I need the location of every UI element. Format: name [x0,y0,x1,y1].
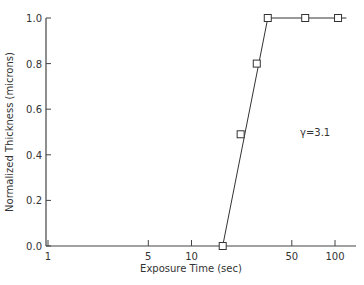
y-tick-label: 1.0 [26,13,42,24]
square-marker [219,243,226,250]
y-tick-label: 0.4 [26,150,42,161]
y-tick-label: 0.8 [26,59,42,70]
y-tick-label: 0.2 [26,195,42,206]
square-marker [335,15,342,22]
square-marker [302,15,309,22]
x-tick-label: 100 [325,251,344,262]
chart-container: 0.00.20.40.60.81.0151050100 γ=3.1 Exposu… [0,0,364,285]
x-tick-label: 1 [45,251,51,262]
square-marker [237,131,244,138]
square-marker [264,15,271,22]
contrast-curve-chart: 0.00.20.40.60.81.0151050100 γ=3.1 Exposu… [0,0,364,285]
gamma-annotation: γ=3.1 [300,127,330,138]
x-tick-label: 50 [285,251,298,262]
x-tick-label: 5 [145,251,151,262]
square-marker [253,60,260,67]
x-axis-label: Exposure Time (sec) [140,263,242,274]
y-tick-label: 0.0 [26,241,42,252]
y-tick-label: 0.6 [26,104,42,115]
x-tick-label: 10 [185,251,198,262]
y-axis-label: Normalized Thickness (microns) [4,52,15,212]
